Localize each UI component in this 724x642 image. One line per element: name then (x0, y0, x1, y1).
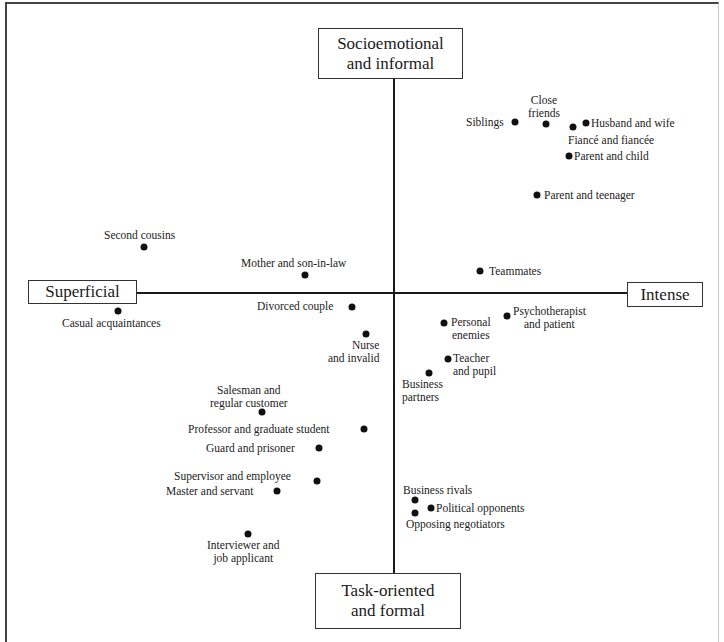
point-dot (349, 304, 356, 311)
point-label: Supervisor and employee (174, 470, 291, 483)
pole-bottom-box: Task-oriented and formal (315, 573, 461, 629)
point-label: Business partners (402, 378, 443, 404)
pole-bottom-label: Task-oriented and formal (341, 581, 434, 621)
pole-left-label: Superficial (45, 282, 120, 302)
point-label: Teacher and pupil (453, 352, 496, 378)
point-label: Husband and wife (591, 117, 675, 130)
point-dot (412, 497, 419, 504)
point-label: Nurse and invalid (328, 339, 379, 365)
point-dot (534, 192, 541, 199)
point-dot (543, 121, 550, 128)
point-dot (583, 120, 590, 127)
point-dot (445, 356, 452, 363)
point-dot (115, 308, 122, 315)
point-dot (412, 510, 419, 517)
pole-top-box: Socioemotional and informal (318, 28, 463, 79)
point-dot (361, 426, 368, 433)
point-label: Teammates (489, 265, 541, 278)
point-label: Political opponents (436, 502, 524, 515)
point-dot (274, 488, 281, 495)
point-label: Professor and graduate student (188, 423, 329, 436)
point-label: Siblings (466, 116, 504, 129)
point-dot (441, 320, 448, 327)
point-label: Salesman and regular customer (210, 384, 288, 410)
point-label: Master and servant (166, 485, 254, 498)
point-label: Mother and son-in-law (241, 257, 346, 270)
point-dot (363, 331, 370, 338)
vertical-axis-line (393, 78, 395, 574)
point-label: Opposing negotiators (406, 518, 505, 531)
point-label: Guard and prisoner (206, 442, 295, 455)
point-dot (566, 153, 573, 160)
point-label: Personal enemies (451, 316, 491, 342)
point-dot (314, 478, 321, 485)
point-label: Second cousins (104, 229, 175, 242)
point-label: Casual acquaintances (62, 317, 161, 330)
pole-right-label: Intense (640, 285, 689, 305)
point-label: Business rivals (403, 484, 472, 497)
pole-right-box: Intense (627, 282, 703, 307)
pole-top-label: Socioemotional and informal (337, 34, 444, 74)
point-dot (428, 505, 435, 512)
point-dot (245, 531, 252, 538)
point-label: Psychotherapist and patient (513, 305, 586, 331)
point-dot (302, 272, 309, 279)
point-dot (316, 445, 323, 452)
point-label: Close friends (528, 94, 560, 120)
point-dot (504, 313, 511, 320)
point-dot (570, 124, 577, 131)
point-dot (477, 268, 484, 275)
point-dot (141, 244, 148, 251)
point-label: Divorced couple (257, 300, 333, 313)
point-dot (426, 370, 433, 377)
point-label: Interviewer and job applicant (207, 539, 279, 565)
point-label: Parent and teenager (544, 189, 635, 202)
pole-left-box: Superficial (28, 280, 137, 304)
point-dot (512, 119, 519, 126)
horizontal-axis-line (136, 292, 627, 294)
point-label: Parent and child (574, 150, 649, 163)
point-label: Fiancé and fiancée (568, 134, 654, 147)
